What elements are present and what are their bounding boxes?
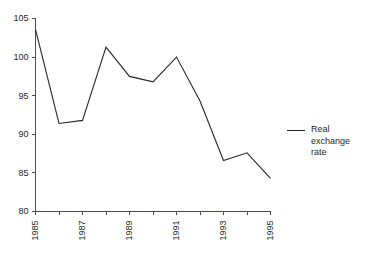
x-tick-label: 1993	[218, 221, 228, 241]
y-tick-label: 100	[13, 52, 28, 62]
x-axis-ticks	[36, 212, 271, 216]
chart-container: 80859095100105 198519871989199119931995 …	[0, 0, 370, 266]
y-axis-tick-labels: 80859095100105	[13, 13, 28, 216]
x-tick-label: 1995	[265, 221, 275, 241]
x-tick-label: 1991	[171, 221, 181, 241]
y-tick-label: 80	[18, 206, 28, 216]
series-line-real-exchange-rate	[36, 29, 271, 178]
y-tick-label: 90	[18, 129, 28, 139]
y-tick-label: 85	[18, 168, 28, 178]
y-tick-label: 95	[18, 91, 28, 101]
legend-label-real-exchange-rate: Real exchange rate	[311, 124, 363, 159]
x-tick-label: 1989	[124, 221, 134, 241]
y-axis-ticks	[32, 19, 36, 212]
x-tick-label: 1985	[30, 221, 40, 241]
y-tick-label: 105	[13, 13, 28, 23]
chart-legend: Real exchange rate	[287, 124, 365, 159]
x-tick-label: 1987	[77, 221, 87, 241]
x-axis-tick-labels: 198519871989199119931995	[30, 221, 275, 241]
legend-line-swatch	[287, 130, 305, 131]
